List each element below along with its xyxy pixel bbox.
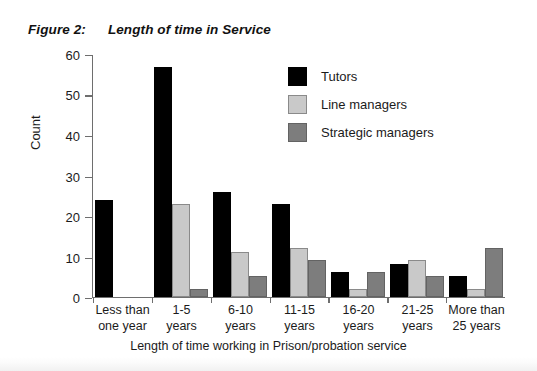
figure-title: Length of time in Service <box>108 22 271 37</box>
bar <box>231 252 249 296</box>
x-axis-tick-mark <box>446 297 447 303</box>
x-axis-tick-mark <box>328 297 329 303</box>
bar <box>249 276 267 296</box>
figure-container: Figure 2: Length of time in Service Coun… <box>0 0 537 371</box>
bar-group <box>211 55 270 297</box>
y-axis-title: Count <box>28 115 43 150</box>
y-axis-tick-label: 50 <box>66 88 80 103</box>
y-axis-tick-label: 0 <box>73 291 80 306</box>
bar <box>390 264 408 296</box>
bar-group <box>152 55 211 297</box>
x-axis-tick-label: Less thanone year <box>93 303 152 334</box>
x-axis-tick-label: 11-15years <box>270 303 329 334</box>
y-axis-tick-label: 30 <box>66 169 80 184</box>
x-axis-tick-labels: Less thanone year1-5years6-10years11-15y… <box>93 303 506 334</box>
y-axis-tick-mark <box>85 258 92 259</box>
legend-item: Line managers <box>288 90 434 118</box>
y-axis-tick-label: 40 <box>66 128 80 143</box>
chart-legend: TutorsLine managersStrategic managers <box>288 62 434 146</box>
bar <box>154 67 172 297</box>
y-axis-tick-label: 60 <box>66 48 80 63</box>
bar <box>290 248 308 296</box>
y-axis-tick-mark <box>85 298 92 299</box>
bar <box>172 204 190 297</box>
legend-item-label: Line managers <box>321 97 407 112</box>
y-axis-tick-mark <box>85 217 92 218</box>
x-axis-tick-mark <box>93 297 94 303</box>
bar <box>190 289 208 297</box>
bar <box>426 276 444 296</box>
x-axis-tick-mark <box>152 297 153 303</box>
x-axis-line <box>92 297 505 298</box>
x-axis-title: Length of time working in Prison/probati… <box>0 339 537 353</box>
bar <box>213 192 231 297</box>
square-swatch-icon <box>288 67 307 86</box>
square-swatch-icon <box>288 123 307 142</box>
bar <box>349 289 367 297</box>
y-axis-tick-mark <box>85 177 92 178</box>
bar <box>467 289 485 297</box>
figure-title-row: Figure 2: Length of time in Service <box>28 22 271 37</box>
y-axis-tick-mark <box>85 136 92 137</box>
legend-item: Tutors <box>288 62 434 90</box>
x-axis-tick-label: 16-20years <box>329 303 388 334</box>
x-axis-tick-label: 1-5years <box>152 303 211 334</box>
y-axis-tick-label: 10 <box>66 250 80 265</box>
legend-item-label: Tutors <box>321 69 357 84</box>
bar <box>272 204 290 297</box>
figure-number-label: Figure 2: <box>28 22 86 37</box>
x-axis-tick-label: More than25 years <box>447 303 506 334</box>
bar-group <box>446 55 505 297</box>
x-axis-tick-mark <box>387 297 388 303</box>
y-axis-tick-mark <box>85 95 92 96</box>
bar <box>408 260 426 296</box>
y-axis-tick-label: 20 <box>66 209 80 224</box>
x-axis-tick-label: 21-25years <box>388 303 447 334</box>
y-axis-tick-mark <box>85 55 92 56</box>
x-axis-tick-label: 6-10years <box>211 303 270 334</box>
bar <box>485 248 503 296</box>
square-swatch-icon <box>288 95 307 114</box>
bar-group <box>93 55 152 297</box>
bar <box>95 200 113 297</box>
x-axis-tick-mark <box>270 297 271 303</box>
legend-item-label: Strategic managers <box>321 125 434 140</box>
bar <box>367 272 385 296</box>
x-axis-tick-mark <box>211 297 212 303</box>
bar <box>449 276 467 296</box>
bar <box>308 260 326 296</box>
legend-item: Strategic managers <box>288 118 434 146</box>
bar <box>331 272 349 296</box>
